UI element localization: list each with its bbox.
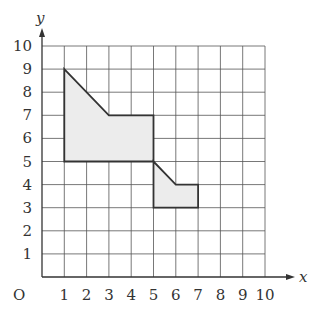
y-tick-label: 2 xyxy=(22,222,32,240)
y-axis-label: y xyxy=(35,9,45,27)
x-tick-label: 6 xyxy=(171,286,181,304)
x-tick-label: 7 xyxy=(193,286,203,304)
y-tick-label: 6 xyxy=(22,129,32,147)
x-tick-label: 8 xyxy=(216,286,226,304)
y-tick-label: 5 xyxy=(22,153,32,171)
x-tick-label: 4 xyxy=(126,286,136,304)
x-tick-label: 10 xyxy=(255,286,274,304)
y-tick-label: 8 xyxy=(22,83,32,101)
y-axis-arrow-icon xyxy=(39,28,45,37)
x-tick-label: 2 xyxy=(82,286,92,304)
y-tick-label: 1 xyxy=(22,245,32,263)
x-axis-arrow-icon xyxy=(286,274,295,280)
y-tick-label: 3 xyxy=(22,199,32,217)
y-tick-label: 4 xyxy=(22,176,32,194)
y-tick-label: 9 xyxy=(22,60,32,78)
x-tick-label: 9 xyxy=(238,286,248,304)
y-tick-labels: 12345678910 xyxy=(13,37,32,263)
x-tick-label: 1 xyxy=(60,286,70,304)
x-tick-label: 3 xyxy=(104,286,114,304)
x-axis-label: x xyxy=(299,268,308,286)
y-tick-label: 10 xyxy=(13,37,32,55)
coordinate-grid-diagram: y x O 12345678910 12345678910 xyxy=(0,0,315,313)
origin-label: O xyxy=(13,286,25,304)
y-tick-label: 7 xyxy=(22,106,32,124)
x-tick-label: 5 xyxy=(149,286,159,304)
axes: y x O xyxy=(13,9,308,304)
x-tick-labels: 12345678910 xyxy=(60,286,275,304)
